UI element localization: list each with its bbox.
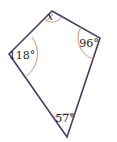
angle-label-top: x xyxy=(47,10,54,23)
angle-label-bottom: 57° xyxy=(55,112,75,125)
quadrilateral-diagram: x 96° 57° 118° xyxy=(0,0,117,142)
angle-label-left: 118° xyxy=(9,49,36,62)
angle-label-right: 96° xyxy=(79,37,99,50)
